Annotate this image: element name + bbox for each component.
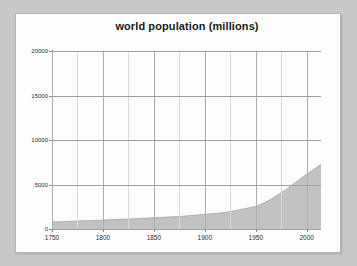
plot-area: 0500010000150002000017501800185019001950… [52,51,321,229]
gridline-horizontal-0 [52,229,321,230]
chart-sheet: world population (millions) 050001000015… [15,13,341,253]
chart-title: world population (millions) [52,20,322,32]
gridline-horizontal-10000 [52,140,321,141]
x-tick-mark-1850 [154,229,155,232]
y-tick-mark-15000 [49,96,52,97]
y-tick-mark-20000 [49,51,52,52]
x-tick-mark-1750 [52,229,53,232]
x-tick-mark-1900 [205,229,206,232]
y-axis-tick-label: 0 [45,226,48,232]
y-axis-tick-label: 20000 [31,48,48,54]
gridline-horizontal-5000 [52,185,321,186]
x-axis-tick-label: 2000 [299,234,313,241]
page-background: world population (millions) 050001000015… [0,0,357,266]
x-axis-tick-label: 1900 [198,234,212,241]
gridline-horizontal-15000 [52,96,321,97]
y-tick-mark-5000 [49,185,52,186]
x-axis-tick-label: 1850 [147,234,161,241]
x-axis-tick-label: 1750 [45,234,59,241]
x-axis-tick-label: 1800 [96,234,110,241]
y-axis-tick-label: 15000 [31,93,48,99]
y-tick-mark-10000 [49,140,52,141]
y-axis-tick-label: 5000 [35,182,48,188]
x-tick-mark-1950 [256,229,257,232]
x-axis-tick-label: 1950 [249,234,263,241]
x-tick-mark-1800 [103,229,104,232]
y-axis-tick-label: 10000 [31,137,48,143]
x-tick-mark-2000 [307,229,308,232]
gridline-horizontal-20000 [52,51,321,52]
